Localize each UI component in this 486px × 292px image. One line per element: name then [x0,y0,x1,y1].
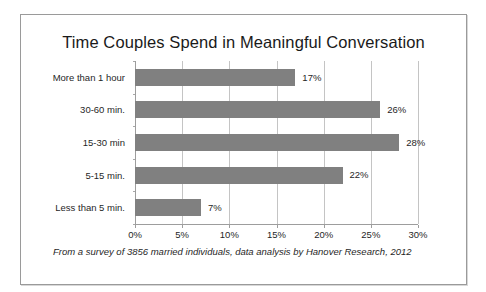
chart-footnote: From a survey of 3856 married individual… [53,246,412,257]
x-axis-tick-label: 30% [408,229,427,240]
bar-row[interactable]: 22% [135,159,486,192]
bar-value-label: 26% [387,105,406,115]
bar[interactable] [135,69,295,86]
category-label: 15-30 min [83,126,125,159]
bar-value-label: 7% [208,203,222,213]
x-axis-tick-label: 5% [175,229,189,240]
x-axis-tick [229,225,230,228]
bar-row[interactable]: 26% [135,94,486,127]
category-label: 5-15 min. [85,159,125,192]
bar-row[interactable]: 7% [135,191,486,224]
bar-value-label: 17% [302,73,321,83]
x-axis-tick [324,225,325,228]
x-axis-tick [277,225,278,228]
category-axis-labels: More than 1 hour30-60 min.15-30 min5-15 … [45,61,131,224]
x-axis-tick [418,225,419,228]
x-axis-tick-label: 10% [220,229,239,240]
x-axis-tick-label: 25% [361,229,380,240]
x-axis-labels: 0%5%10%15%20%25%30% [135,229,418,243]
bar-series: 17%26%28%22%7% [135,61,418,224]
x-axis-tick [135,225,136,228]
bar[interactable] [135,199,201,216]
plot-area: 17%26%28%22%7% [135,61,418,224]
x-axis-tick [371,225,372,228]
category-label: 30-60 min. [80,94,125,127]
bar-row[interactable]: 17% [135,61,486,94]
x-axis-tick-label: 20% [314,229,333,240]
x-axis-tick [182,225,183,228]
x-axis-tick-label: 15% [267,229,286,240]
chart-frame: Time Couples Spend in Meaningful Convers… [20,14,467,285]
x-axis-tick-label: 0% [128,229,142,240]
category-label: Less than 5 min. [55,191,125,224]
chart-page: Time Couples Spend in Meaningful Convers… [0,0,486,292]
chart-title: Time Couples Spend in Meaningful Convers… [21,33,466,52]
bar[interactable] [135,167,343,184]
bar[interactable] [135,134,399,151]
bar[interactable] [135,101,380,118]
bar-value-label: 22% [350,170,369,180]
bar-value-label: 28% [406,138,425,148]
bar-row[interactable]: 28% [135,126,486,159]
category-label: More than 1 hour [53,61,125,94]
